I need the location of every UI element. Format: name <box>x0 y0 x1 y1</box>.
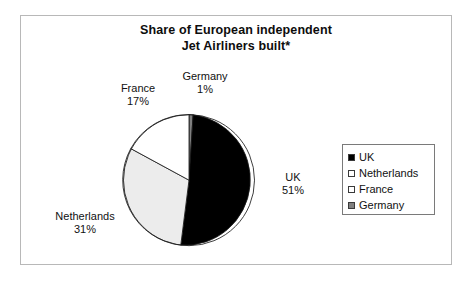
chart-screenshot: Share of European independent Jet Airlin… <box>0 0 475 284</box>
legend-item-france[interactable]: France <box>348 181 434 197</box>
legend-swatch-germany <box>348 202 355 209</box>
pie-chart <box>105 99 273 263</box>
pie-label-netherlands-name: Netherlands <box>41 210 129 223</box>
plot-area: Germany 1% France 17% Netherlands 31% UK… <box>21 16 453 266</box>
legend-swatch-france <box>348 186 355 193</box>
legend-item-uk[interactable]: UK <box>348 149 434 165</box>
pie-label-uk-name: UK <box>271 171 315 184</box>
legend-item-netherlands[interactable]: Netherlands <box>348 165 434 181</box>
chart-frame: Share of European independent Jet Airlin… <box>20 15 452 265</box>
legend-item-germany[interactable]: Germany <box>348 197 434 213</box>
chart-legend: UK Netherlands France Germany <box>342 144 435 215</box>
pie-label-germany-value: 1% <box>171 83 239 96</box>
legend-swatch-uk <box>348 154 355 161</box>
pie-label-uk: UK 51% <box>271 171 315 197</box>
legend-swatch-netherlands <box>348 170 355 177</box>
pie-label-netherlands-value: 31% <box>41 223 129 236</box>
pie-label-france: France 17% <box>107 82 169 108</box>
pie-label-germany-name: Germany <box>171 70 239 83</box>
legend-label-germany: Germany <box>359 197 404 213</box>
legend-label-uk: UK <box>359 149 374 165</box>
legend-label-netherlands: Netherlands <box>359 165 418 181</box>
pie-label-netherlands: Netherlands 31% <box>41 210 129 236</box>
pie-label-uk-value: 51% <box>271 184 315 197</box>
pie-label-germany: Germany 1% <box>171 70 239 96</box>
legend-label-france: France <box>359 181 393 197</box>
pie-label-france-value: 17% <box>107 95 169 108</box>
pie-label-france-name: France <box>107 82 169 95</box>
